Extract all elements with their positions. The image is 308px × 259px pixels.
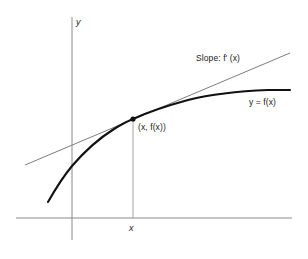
y-axis-label: y	[76, 18, 81, 27]
tangency-point-label: (x, f(x))	[138, 123, 166, 132]
function-curve-label: y = f(x)	[249, 98, 276, 107]
x-axis-label: x	[129, 224, 134, 233]
derivative-tangent-diagram: y x Slope: f' (x) y = f(x) (x, f(x))	[0, 0, 308, 259]
slope-annotation-label: Slope: f' (x)	[196, 54, 240, 63]
tangency-point-marker	[130, 116, 135, 121]
